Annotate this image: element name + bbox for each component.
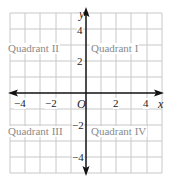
y-tick-neg4: −4 xyxy=(72,152,84,163)
x-tick-neg2: −2 xyxy=(45,98,57,109)
quadrant-iv-label: Quadrant IV xyxy=(90,126,147,137)
quadrant-iii-label: Quadrant III xyxy=(7,126,64,137)
y-tick-neg2: −2 xyxy=(72,120,84,131)
axes xyxy=(12,11,160,171)
coordinate-grid xyxy=(0,0,173,184)
y-tick-2: 2 xyxy=(77,56,83,67)
x-tick-2: 2 xyxy=(113,98,119,109)
x-tick-4: 4 xyxy=(143,98,149,109)
quadrant-i-label: Quadrant I xyxy=(90,43,139,54)
x-axis-label: x xyxy=(158,98,163,110)
quadrant-ii-label: Quadrant II xyxy=(7,43,60,54)
origin-label: O xyxy=(77,98,86,110)
y-axis-label: y xyxy=(79,8,84,20)
y-tick-4: 4 xyxy=(77,25,83,36)
x-tick-neg4: −4 xyxy=(14,98,26,109)
